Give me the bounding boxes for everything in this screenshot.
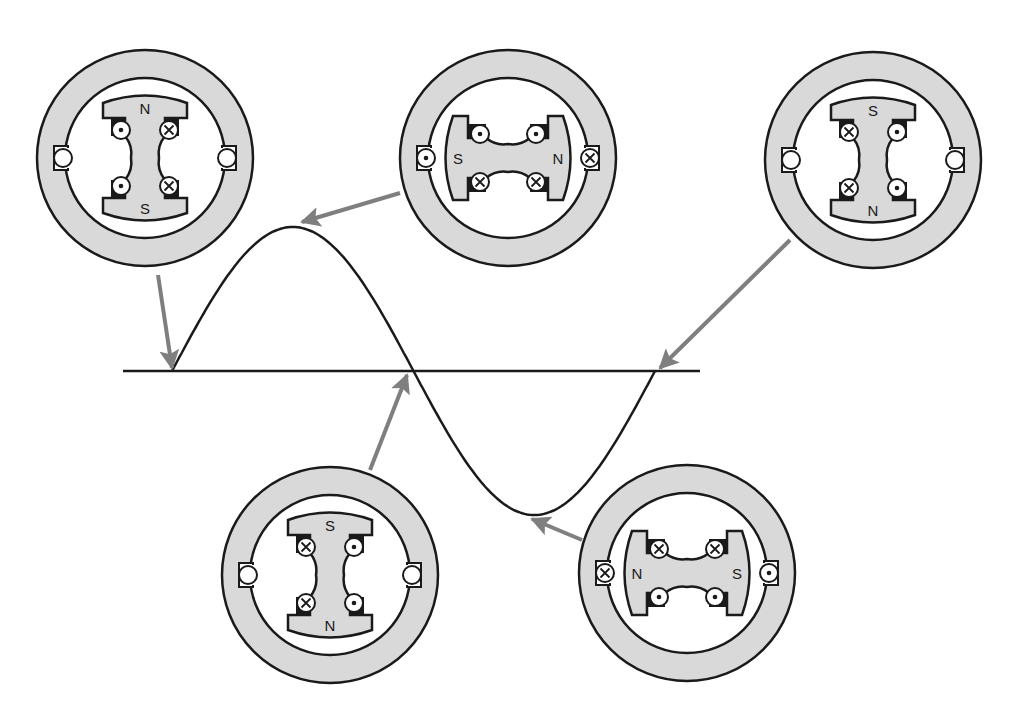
pointer-arrow xyxy=(370,375,407,470)
current-out-dot-icon xyxy=(767,571,772,576)
brush-terminal xyxy=(218,149,236,167)
current-out-dot-icon xyxy=(352,601,357,606)
current-out-dot-icon xyxy=(424,156,429,161)
brush-terminal xyxy=(403,566,421,584)
rotor-180deg: SN xyxy=(222,467,438,683)
diagram-canvas: NSSNSNSNNS xyxy=(0,0,1019,724)
pointer-arrow xyxy=(532,519,582,540)
current-out-dot-icon xyxy=(895,130,900,135)
pointer-arrow xyxy=(302,193,400,222)
rotor-90deg: SN xyxy=(400,50,616,266)
pole-label-a: S xyxy=(453,150,463,167)
current-out-dot-icon xyxy=(119,128,124,133)
brush-terminal xyxy=(946,151,964,169)
pointer-arrow xyxy=(158,275,172,368)
pole-label-a: S xyxy=(325,517,335,534)
current-out-dot-icon xyxy=(895,186,900,191)
brush-terminal xyxy=(54,149,72,167)
current-out-dot-icon xyxy=(119,184,124,189)
rotor-270deg: NS xyxy=(579,465,795,681)
pole-label-a: N xyxy=(632,565,643,582)
rotor-0deg: NS xyxy=(37,50,253,266)
pointer-arrow xyxy=(660,240,790,368)
pole-label-a: S xyxy=(868,102,878,119)
sine-wave-group xyxy=(123,227,700,515)
brush-terminal xyxy=(782,151,800,169)
pole-label-b: S xyxy=(732,565,742,582)
current-out-dot-icon xyxy=(713,595,718,600)
pole-label-a: N xyxy=(140,100,151,117)
pole-label-b: N xyxy=(868,202,879,219)
current-out-dot-icon xyxy=(352,545,357,550)
pole-label-b: N xyxy=(553,150,564,167)
generator-sine-diagram: NSSNSNSNNS xyxy=(0,0,1019,724)
current-out-dot-icon xyxy=(478,132,483,137)
current-out-dot-icon xyxy=(534,132,539,137)
pole-label-b: S xyxy=(140,200,150,217)
pole-label-b: N xyxy=(325,617,336,634)
brush-terminal xyxy=(239,566,257,584)
current-out-dot-icon xyxy=(657,595,662,600)
rotors-group: NSSNSNSNNS xyxy=(37,50,981,683)
rotor-360deg: SN xyxy=(765,52,981,268)
